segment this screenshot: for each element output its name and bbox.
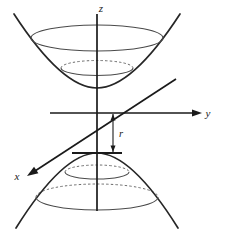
hyperboloid-figure: z y x r — [0, 0, 225, 234]
figure-canvas: z y x r — [0, 0, 225, 234]
radius-arrowhead-top-icon — [111, 114, 116, 121]
y-axis-arrowhead-icon — [192, 109, 202, 116]
x-axis-arrowhead-icon — [27, 167, 38, 176]
x-axis-line — [35, 79, 176, 171]
x-axis-label: x — [14, 170, 20, 182]
y-axis-label: y — [205, 107, 211, 119]
radius-arrowhead-bottom-icon — [111, 146, 116, 153]
lower-nappe-left-hyperbola — [16, 153, 97, 228]
radius-label: r — [119, 128, 124, 139]
lower-nappe-right-hyperbola — [97, 153, 178, 228]
radius-dimension-group — [111, 114, 116, 152]
axes-group — [27, 14, 202, 211]
z-axis-label: z — [98, 2, 104, 14]
